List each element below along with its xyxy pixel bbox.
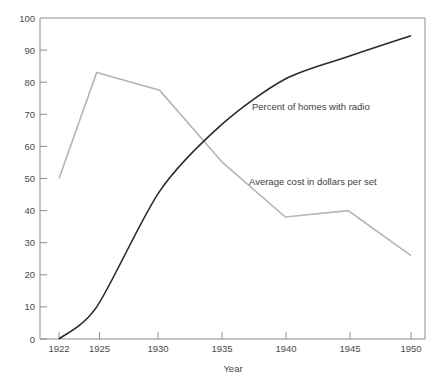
y-tick-label: 70 [24,109,35,120]
y-tick-group-50: 50 [24,173,47,184]
x-tick-label: 1935 [211,343,232,354]
x-tick-group-1925: 1925 [89,332,110,354]
y-tick-group-100: 100 [19,13,35,24]
y-tick-group-30: 30 [24,237,47,248]
y-tick-label: 60 [24,141,35,152]
x-axis-title: Year [223,363,242,374]
radio-adoption-line-chart: 0 10 20 30 40 50 [0,0,444,381]
y-tick-label: 40 [24,205,35,216]
x-tick-group-1950: 1950 [400,332,421,354]
x-tick-group-1935: 1935 [211,332,232,354]
y-tick-label: 80 [24,77,35,88]
y-tick-group-70: 70 [24,109,47,120]
y-tick-label: 10 [24,301,35,312]
y-tick-group-10: 10 [24,301,47,312]
y-tick-group-80: 80 [24,77,47,88]
x-tick-label: 1945 [339,343,360,354]
annotation-average-cost: Average cost in dollars per set [249,176,377,187]
y-tick-group-40: 40 [24,205,47,216]
y-tick-label: 100 [19,13,35,24]
y-tick-label: 90 [24,45,35,56]
x-tick-label: 1922 [48,343,69,354]
y-tick-label: 0 [30,334,35,345]
y-tick-label: 20 [24,269,35,280]
y-tick-label: 50 [24,173,35,184]
y-tick-group-20: 20 [24,269,47,280]
y-tick-label: 30 [24,237,35,248]
x-tick-label: 1930 [147,343,168,354]
x-tick-group-1930: 1930 [147,332,168,354]
chart-canvas: 0 10 20 30 40 50 [0,0,444,381]
y-tick-group-90: 90 [24,45,47,56]
series-percent-homes [59,36,411,339]
x-tick-label: 1940 [275,343,296,354]
x-tick-group-1940: 1940 [275,332,296,354]
annotation-percent-homes: Percent of homes with radio [252,101,370,112]
y-axis: 0 10 20 30 40 50 [19,13,47,345]
x-axis: 1922 1925 1930 1935 1940 1945 [48,332,421,374]
series-average-cost [59,73,411,256]
x-tick-group-1922: 1922 [48,332,69,354]
percent-homes-line [59,36,411,339]
y-tick-group-0: 0 [30,334,47,345]
x-tick-group-1945: 1945 [339,332,360,354]
average-cost-line [59,73,411,256]
x-tick-label: 1925 [89,343,110,354]
x-tick-label: 1950 [400,343,421,354]
y-tick-group-60: 60 [24,141,47,152]
